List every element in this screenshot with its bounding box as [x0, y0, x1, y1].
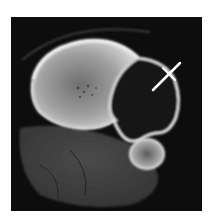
ct-scan-image: [11, 17, 202, 211]
small-bone: [130, 139, 164, 169]
ct-scan-graphic: [11, 17, 202, 211]
